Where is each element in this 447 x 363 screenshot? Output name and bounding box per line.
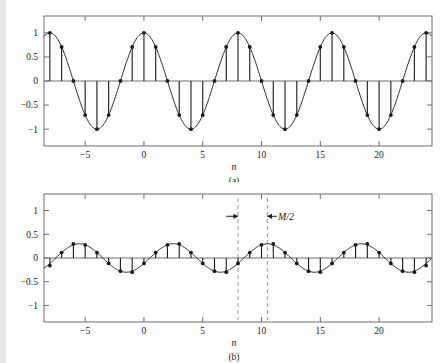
x-tick-label: 20 <box>374 150 384 160</box>
stem-marker <box>330 31 334 35</box>
stem-marker <box>236 31 240 35</box>
x-tick-label: 5 <box>200 326 205 336</box>
stem-marker <box>271 113 275 117</box>
y-tick-label: 0 <box>33 253 38 263</box>
stem-marker <box>60 45 64 49</box>
panel-b-container: −1−0.500.51−505101520M/2n(b) <box>0 182 447 363</box>
stem-marker <box>83 243 87 247</box>
stem-marker <box>342 251 346 255</box>
panel-b-plot: −1−0.500.51−505101520M/2n(b) <box>0 182 447 363</box>
stem-marker <box>166 243 170 247</box>
stem-marker <box>224 270 228 274</box>
y-tick-label: 0.5 <box>26 52 38 62</box>
stem-marker <box>60 251 64 255</box>
stem-marker <box>248 251 252 255</box>
panel-a-plot: −1−0.500.51−505101520n(a) <box>0 0 447 182</box>
stem-marker <box>166 79 170 83</box>
x-tick-label: 15 <box>316 150 326 160</box>
stem-marker <box>130 45 134 49</box>
stem-marker <box>95 251 99 255</box>
stem-marker <box>283 251 287 255</box>
y-tick-label: 1 <box>33 28 38 38</box>
y-tick-label: 0 <box>33 76 38 86</box>
stem-marker <box>107 262 111 266</box>
stem-marker <box>95 127 99 131</box>
stem-marker <box>119 269 123 273</box>
x-tick-label: −5 <box>80 326 90 336</box>
x-tick-label: 5 <box>200 150 205 160</box>
stem-marker <box>130 270 134 274</box>
stem-marker <box>83 113 87 117</box>
stem-marker <box>154 251 158 255</box>
stem-marker <box>342 45 346 49</box>
y-tick-label: 0.5 <box>26 230 38 240</box>
stem-marker <box>377 127 381 131</box>
stem-marker <box>307 269 311 273</box>
y-tick-label: −0.5 <box>21 100 38 110</box>
stem-marker <box>213 269 217 273</box>
stem-marker <box>177 242 181 246</box>
stem-marker <box>213 79 217 83</box>
stem-marker <box>318 45 322 49</box>
panel-caption: (b) <box>228 352 239 363</box>
stem-marker <box>412 45 416 49</box>
stem-marker <box>389 262 393 266</box>
stem-marker <box>189 251 193 255</box>
stem-marker <box>189 127 193 131</box>
stem-marker <box>424 31 428 35</box>
figure-page: −1−0.500.51−505101520n(a) −1−0.500.51−50… <box>0 0 447 363</box>
stem-marker <box>318 270 322 274</box>
stem-marker <box>119 79 123 83</box>
stem-marker <box>154 45 158 49</box>
x-tick-label: 0 <box>142 326 147 336</box>
y-tick-label: −1 <box>28 125 38 135</box>
stem-marker <box>107 113 111 117</box>
stem-marker <box>236 262 240 266</box>
x-tick-label: 10 <box>257 150 267 160</box>
stem-marker <box>354 243 358 247</box>
stem-marker <box>295 262 299 266</box>
stem-marker <box>71 242 75 246</box>
stem-marker <box>224 45 228 49</box>
stem-marker <box>354 79 358 83</box>
stem-marker <box>412 270 416 274</box>
x-tick-label: 0 <box>142 150 147 160</box>
annotation-arrow-head <box>234 214 239 219</box>
x-tick-label: 20 <box>374 326 384 336</box>
stem-marker <box>142 31 146 35</box>
stem-marker <box>201 113 205 117</box>
x-tick-label: 15 <box>316 326 326 336</box>
stem-marker <box>48 264 52 268</box>
panel-a-container: −1−0.500.51−505101520n(a) <box>0 0 447 182</box>
stem-marker <box>389 113 393 117</box>
stem-marker <box>424 264 428 268</box>
stem-marker <box>283 127 287 131</box>
y-tick-label: −0.5 <box>21 277 38 287</box>
x-axis-label: n <box>232 337 237 348</box>
stem-marker <box>401 79 405 83</box>
stem-marker <box>142 262 146 266</box>
y-tick-label: −1 <box>28 301 38 311</box>
stem-marker <box>365 113 369 117</box>
annotation-label: M/2 <box>277 211 294 222</box>
stem-marker <box>201 262 205 266</box>
stem-marker <box>260 79 264 83</box>
stem-marker <box>248 45 252 49</box>
stem-marker <box>71 79 75 83</box>
x-tick-label: −5 <box>80 150 90 160</box>
x-axis-label: n <box>232 161 237 172</box>
stem-marker <box>177 113 181 117</box>
stem-marker <box>365 242 369 246</box>
annotation-arrow-head <box>267 214 272 219</box>
stem-marker <box>307 79 311 83</box>
stem-marker <box>330 262 334 266</box>
stem-marker <box>401 269 405 273</box>
stem-marker <box>260 243 264 247</box>
y-tick-label: 1 <box>33 206 38 216</box>
stem-marker <box>48 31 52 35</box>
x-tick-label: 10 <box>257 326 267 336</box>
stem-marker <box>377 251 381 255</box>
stem-marker <box>295 113 299 117</box>
stem-marker <box>271 242 275 246</box>
